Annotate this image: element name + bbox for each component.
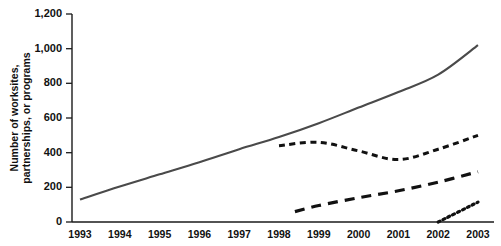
plot-area — [80, 45, 478, 222]
y-tick-label-800: 800 — [44, 76, 62, 88]
x-tick-label-1996: 1996 — [188, 228, 212, 240]
series-line-programs — [295, 172, 478, 212]
x-tick-label-1993: 1993 — [68, 228, 92, 240]
y-tick-label-1000: 1,000 — [34, 42, 62, 54]
x-tick-label-1994: 1994 — [108, 228, 132, 240]
y-axis-title: Number of worksites, partnerships, or pr… — [8, 52, 32, 183]
y-tick-label-600: 600 — [44, 111, 62, 123]
y-axis-title-line-2: partnerships, or programs — [20, 52, 32, 183]
x-axis: 1993 1994 1995 1996 1997 1998 1999 2000 … — [68, 222, 494, 240]
x-tick-label-1995: 1995 — [148, 228, 172, 240]
x-tick-label-1998: 1998 — [267, 228, 291, 240]
x-tick-label-2000: 2000 — [347, 228, 371, 240]
series-line-partnerships — [279, 135, 478, 159]
y-tick-label-200: 200 — [44, 180, 62, 192]
line-chart: Number of worksites, partnerships, or pr… — [0, 0, 501, 246]
x-tick-label-2003: 2003 — [466, 228, 490, 240]
series-line-worksites — [80, 45, 478, 199]
series-line-new-initiatives — [438, 202, 478, 222]
y-tick-label-400: 400 — [44, 146, 62, 158]
y-tick-label-0: 0 — [56, 215, 62, 227]
chart-container: Number of worksites, partnerships, or pr… — [0, 0, 501, 246]
y-axis: 1,200 1,000 800 600 400 200 0 — [34, 7, 72, 227]
y-axis-title-line-1: Number of worksites, — [8, 65, 20, 172]
x-tick-label-1997: 1997 — [228, 228, 252, 240]
x-tick-label-2001: 2001 — [387, 228, 411, 240]
x-tick-label-1999: 1999 — [307, 228, 331, 240]
y-tick-label-1200: 1,200 — [34, 7, 62, 19]
x-tick-label-2002: 2002 — [427, 228, 451, 240]
